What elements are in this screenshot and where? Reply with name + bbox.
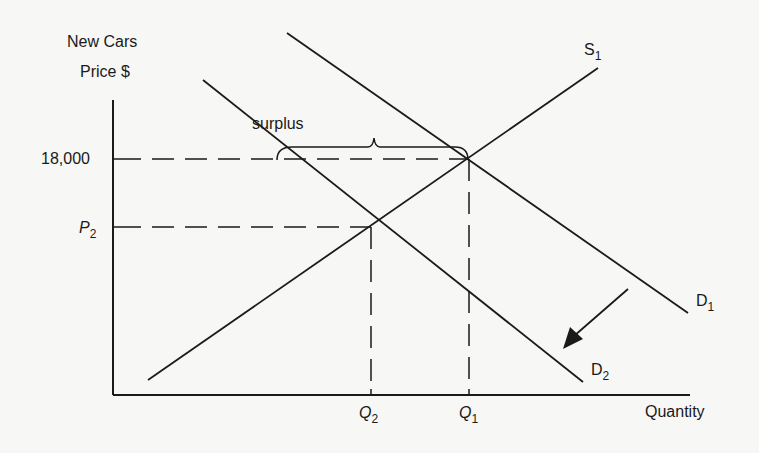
s1-sub: 1 bbox=[595, 49, 602, 63]
x-axis-title: Quantity bbox=[645, 404, 705, 420]
p2-sub: 2 bbox=[90, 227, 97, 241]
y-tick-label-18000: 18,000 bbox=[41, 151, 90, 167]
q1-sub: 1 bbox=[471, 412, 478, 426]
surplus-label: surplus bbox=[252, 116, 304, 132]
surplus-brace bbox=[277, 138, 468, 160]
q2-sub: 2 bbox=[371, 412, 378, 426]
d2-sub: 2 bbox=[603, 369, 610, 383]
demand-curve-d1 bbox=[287, 33, 688, 313]
d1-sub: 1 bbox=[708, 300, 715, 314]
q2-main: Q bbox=[359, 404, 371, 421]
x-tick-label-q2: Q2 bbox=[359, 405, 378, 421]
p2-main: P bbox=[79, 219, 90, 236]
shift-arrow-shaft bbox=[574, 289, 628, 336]
supply-curve-s1 bbox=[148, 68, 598, 380]
d1-main: D bbox=[696, 292, 708, 309]
y-axis-title-line1: New Cars bbox=[67, 34, 137, 50]
curve-label-d2: D2 bbox=[591, 362, 609, 378]
x-tick-label-q1: Q1 bbox=[459, 405, 478, 421]
curve-label-s1: S1 bbox=[584, 42, 601, 58]
curve-label-d1: D1 bbox=[696, 293, 714, 309]
y-tick-label-p2: P2 bbox=[79, 220, 96, 236]
d2-main: D bbox=[591, 361, 603, 378]
y-axis-title-line2: Price $ bbox=[80, 64, 130, 80]
s1-main: S bbox=[584, 41, 595, 58]
q1-main: Q bbox=[459, 404, 471, 421]
